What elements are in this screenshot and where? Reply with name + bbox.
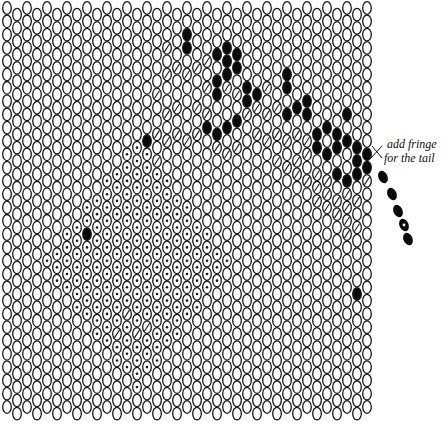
- fringe-bead: [385, 186, 399, 202]
- fringe-bead: [376, 169, 390, 185]
- fringe-bead: [397, 217, 411, 233]
- tail-fringe: [0, 0, 446, 440]
- fringe-bead: [401, 231, 415, 247]
- annotation-add-fringe: add fringe: [387, 137, 437, 151]
- annotation-for-the-tail: for the tail: [384, 151, 435, 165]
- fringe-bead: [391, 203, 405, 219]
